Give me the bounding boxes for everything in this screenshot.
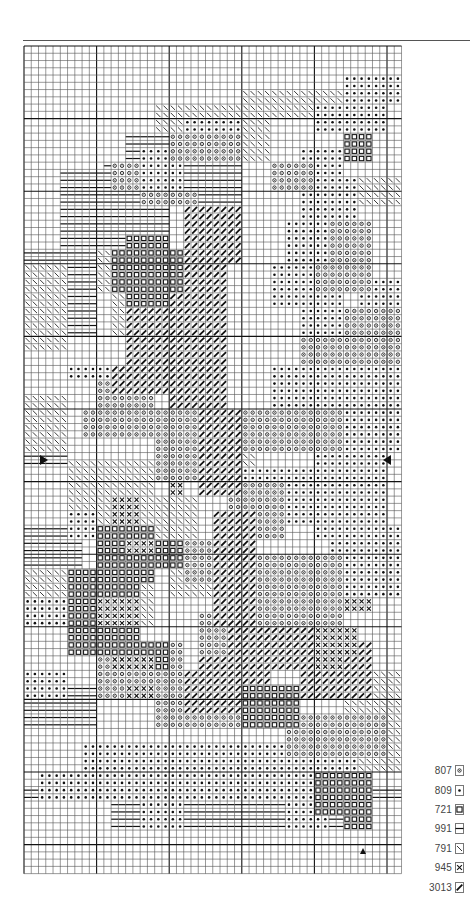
legend-code: 721 [435, 804, 452, 815]
filled-dot-icon [455, 785, 464, 796]
legend-code: 809 [435, 785, 452, 796]
legend-item-945: 945 [412, 858, 470, 877]
legend-item-721: 721 [412, 800, 470, 819]
bold-slash-icon [455, 882, 464, 893]
legend-code: 807 [435, 765, 452, 776]
legend-code: 3013 [429, 882, 452, 893]
pattern-grid [24, 46, 402, 874]
legend-code: 991 [435, 823, 452, 834]
circle-dot-icon [455, 765, 464, 776]
legend-item-809: 809 [412, 780, 470, 799]
legend-code: 945 [435, 862, 452, 873]
legend-item-3013: 3013 [412, 877, 470, 896]
symbol-legend: 8078097219917919453013 [412, 761, 470, 897]
legend-item-991: 991 [412, 819, 470, 838]
legend-item-791: 791 [412, 839, 470, 858]
horizontal-lines-icon [455, 823, 464, 834]
cross-stitch-chart [0, 0, 470, 907]
square-icon [455, 804, 464, 815]
backslash-icon [455, 843, 464, 854]
x-cross-icon [455, 862, 464, 873]
legend-code: 791 [435, 843, 452, 854]
legend-item-807: 807 [412, 761, 470, 780]
